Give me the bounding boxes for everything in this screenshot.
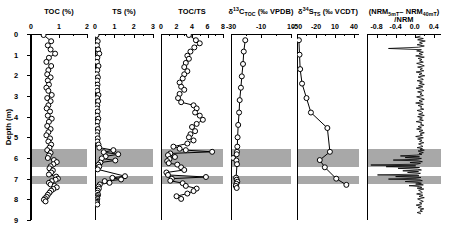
panel-title-toc-ts-ratio: TOC/TS [178, 8, 206, 16]
data-point-marker [179, 196, 184, 201]
data-point-marker [186, 34, 191, 38]
data-point-marker [113, 158, 118, 163]
data-point-marker [185, 141, 190, 146]
data-point-marker [325, 126, 330, 131]
data-point-marker [192, 45, 197, 50]
x-axis-tick-label: -10 [256, 23, 266, 30]
data-point-marker [193, 110, 198, 115]
data-point-marker [237, 110, 242, 115]
plot-ts: 0123 [95, 34, 153, 220]
data-point-marker [171, 144, 176, 149]
x-axis-tick-label: 2 [132, 23, 136, 30]
data-point-marker [191, 138, 196, 143]
data-point-marker [119, 177, 124, 182]
x-axis-tick [87, 34, 88, 38]
data-point-marker [41, 34, 46, 38]
x-axis-tick-label: 1 [112, 23, 116, 30]
data-point-marker [43, 199, 48, 204]
depth-profile-figure: Depth (m) 0123456789 TOC (%) 012 TS (%) … [0, 0, 450, 234]
plot-d13c: -30-1010 [231, 34, 291, 220]
data-point-marker [344, 182, 349, 187]
x-axis-tick-label: 0.0 [410, 23, 420, 30]
data-point-marker [327, 149, 332, 154]
panel-title-d13c: δ13CTOC (‰ VPDB) [228, 8, 293, 16]
x-axis-tick [153, 34, 154, 38]
data-point-marker [95, 34, 99, 38]
data-point-marker [235, 144, 240, 149]
x-axis-tick-label: -50 [292, 23, 302, 30]
data-point-marker [234, 185, 239, 190]
data-point-marker [166, 161, 171, 166]
data-point-marker [334, 176, 339, 181]
data-point-marker [243, 38, 248, 43]
depth-axis-label-wrap: Depth (m) [10, 34, 20, 220]
data-point-marker [235, 162, 240, 167]
data-point-marker [297, 52, 302, 57]
data-point-marker [297, 38, 301, 43]
panel-title-ts: TS (%) [112, 8, 136, 16]
data-series-trace [31, 34, 87, 220]
data-point-marker [238, 85, 243, 90]
x-axis-tick [223, 34, 224, 38]
panel-d34s: δ34STS (‰ VCDT) -50-201040 [297, 0, 359, 234]
data-point-marker [203, 175, 208, 180]
x-axis-tick-label: 6 [206, 23, 210, 30]
data-point-marker [183, 183, 188, 188]
x-axis-tick-label: 2 [175, 23, 179, 30]
data-series-trace [95, 34, 153, 220]
plot-nrm: -0.8-0.40.00.4 [367, 34, 441, 220]
data-point-marker [300, 81, 305, 86]
data-point-marker [182, 167, 187, 172]
x-axis-tick-label: 0 [159, 23, 163, 30]
data-point-marker [317, 158, 322, 163]
panel-title-d34s: δ34STS (‰ VCDT) [298, 8, 358, 16]
data-series-trace [161, 34, 223, 220]
data-point-marker [183, 148, 188, 153]
data-point-marker [197, 41, 202, 46]
panel-toc-ts-ratio: TOC/TS 02468 [161, 0, 223, 234]
data-point-marker [200, 117, 205, 122]
data-point-marker [168, 178, 173, 183]
data-point-marker [111, 148, 116, 153]
data-point-marker [116, 152, 121, 157]
panel-title-toc: TOC (%) [44, 8, 74, 16]
data-point-marker [107, 180, 112, 185]
panel-nrm: (NRM5mT– NRM40mT)/NRM -0.8-0.40.00.4 [367, 0, 441, 234]
data-point-marker [49, 92, 54, 97]
data-point-marker [45, 156, 50, 161]
data-point-marker [172, 154, 177, 159]
data-point-marker [48, 47, 53, 52]
data-point-marker [210, 149, 215, 154]
data-point-marker [102, 179, 107, 184]
data-point-marker [236, 122, 241, 127]
x-axis-tick-label: 8 [221, 23, 225, 30]
x-axis-tick-label: 0 [93, 23, 97, 30]
data-point-marker [182, 87, 187, 92]
x-axis-tick-label: -20 [311, 23, 321, 30]
data-point-marker [241, 61, 246, 66]
x-axis-tick-label: -30 [226, 23, 236, 30]
data-point-marker [308, 110, 313, 115]
x-axis-tick-label: 10 [331, 23, 339, 30]
data-point-marker [46, 172, 51, 177]
plot-toc: 012 [31, 34, 87, 220]
x-axis-tick-label: 4 [190, 23, 194, 30]
data-point-marker [235, 135, 240, 140]
data-point-marker [194, 121, 199, 126]
panel-ts: TS (%) 0123 [95, 0, 153, 234]
data-point-marker [177, 146, 182, 151]
data-series-trace [297, 34, 359, 220]
data-point-marker [241, 49, 246, 54]
data-point-marker [179, 100, 184, 105]
data-series-trace [367, 34, 441, 220]
x-axis-tick-label: 0 [29, 23, 33, 30]
x-axis-tick [291, 34, 292, 38]
data-point-marker [95, 167, 100, 172]
data-point-marker [110, 175, 115, 180]
x-axis-tick-label: 0.4 [429, 23, 439, 30]
plot-d34s: -50-201040 [297, 34, 359, 220]
data-point-marker [186, 135, 191, 140]
depth-axis-label: Depth (m) [4, 109, 13, 145]
data-point-marker [239, 74, 244, 79]
data-point-marker [44, 59, 49, 64]
